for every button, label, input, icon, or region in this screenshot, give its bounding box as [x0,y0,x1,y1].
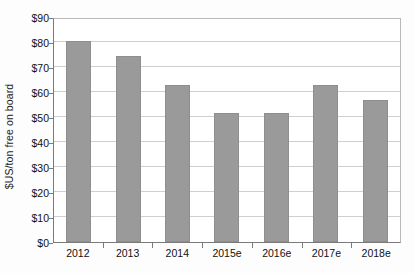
bar-slot [54,19,103,242]
bar[interactable] [116,56,141,242]
x-tick-mark [351,243,352,248]
y-tick-label: $80 [9,37,49,49]
bars-container [54,19,400,242]
bar[interactable] [165,85,190,242]
y-tick-label: $60 [9,87,49,99]
y-tick-mark [48,68,53,69]
bar-slot [103,19,152,242]
bar-slot [252,19,301,242]
y-tick-label: $50 [9,112,49,124]
x-tick-label: 2012 [53,247,103,267]
y-tick-mark [48,243,53,244]
y-tick-mark [48,93,53,94]
y-tick-mark [48,43,53,44]
y-tick-mark [48,218,53,219]
bar[interactable] [66,41,91,242]
bar-slot [301,19,350,242]
x-tick-mark [103,243,104,248]
y-tick-mark [48,118,53,119]
y-tick-label: $70 [9,62,49,74]
bar-chart: $US/ton free on board $0$10$20$30$40$50$… [0,0,415,273]
bar[interactable] [264,113,289,243]
x-tick-label: 2016e [252,247,302,267]
bar-slot [153,19,202,242]
y-tick-mark [48,18,53,19]
bar[interactable] [313,85,338,242]
y-tick-label: $10 [9,212,49,224]
y-tick-mark [48,193,53,194]
y-tick-mark [48,143,53,144]
x-tick-mark [152,243,153,248]
x-tick-label: 2014 [152,247,202,267]
x-tick-label: 2015e [202,247,252,267]
bar-slot [351,19,400,242]
y-tick-label: $40 [9,137,49,149]
x-tick-label: 2018e [351,247,401,267]
plot-area [53,18,401,243]
y-tick-label: $20 [9,187,49,199]
bar[interactable] [363,100,388,243]
y-axis-tick-labels: $0$10$20$30$40$50$60$70$80$90 [5,18,49,243]
x-tick-mark [202,243,203,248]
x-tick-mark [302,243,303,248]
bar-slot [202,19,251,242]
x-tick-mark [252,243,253,248]
x-axis-tick-labels: 2012201320142015e2016e2017e2018e [53,247,401,267]
x-tick-label: 2017e [302,247,352,267]
y-tick-label: $90 [9,12,49,24]
y-tick-label: $30 [9,162,49,174]
bar[interactable] [214,113,239,243]
y-tick-mark [48,168,53,169]
y-tick-label: $0 [9,237,49,249]
x-tick-label: 2013 [103,247,153,267]
